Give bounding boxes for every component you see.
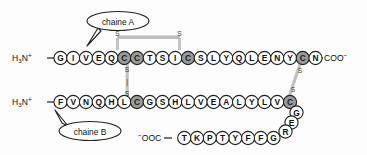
chain-b-residue-27: T <box>216 131 229 144</box>
s-label-interchain-left-mid: | <box>126 78 128 86</box>
residue-letter: E <box>262 53 268 63</box>
chain-b-residue-11: L <box>181 95 194 108</box>
residue-letter: V <box>83 53 89 63</box>
chain-b-residue-1: F <box>54 95 67 108</box>
residue-letter: N <box>312 53 318 63</box>
residue-letter: I <box>174 53 176 63</box>
residue-letter: V <box>274 97 280 107</box>
residue-letter: N <box>83 97 89 107</box>
residue-letter: T <box>182 133 188 143</box>
residue-letter: L <box>185 97 190 107</box>
chain-a-residue-15: Q <box>232 51 245 64</box>
disulfide-bond-intrachain-a-stem-right <box>178 38 181 50</box>
chain-a-n-terminus: H3N+ <box>12 51 32 63</box>
chain-a-residue-5: Q <box>105 51 118 64</box>
chain-a-residue-16: L <box>245 51 258 64</box>
callout-chain-b-label: chaine B <box>74 127 107 137</box>
chain-b-residue-2: V <box>67 95 80 108</box>
residue-letter: P <box>207 133 213 143</box>
residue-letter: Q <box>236 53 243 63</box>
chain-a-residue-17: E <box>258 51 271 64</box>
disulfide-bond-intrachain-a-bar <box>117 36 180 39</box>
chain-b-residue-30: T <box>178 131 191 144</box>
chain-a-residue-9: S <box>156 51 169 64</box>
callout-chain-a-tail <box>87 28 101 46</box>
disulfide-bonds-layer <box>116 36 300 101</box>
chain-b-n-terminus: H3N+ <box>12 95 32 107</box>
s-label-interchain-right-bottom: S <box>291 86 296 93</box>
residue-letter: G <box>146 97 153 107</box>
chain-a-residue-19: Y <box>283 51 296 64</box>
residue-letter: S <box>160 53 166 63</box>
diagram-canvas: GIVEQCCTSICSLYQLENYCNFVNQHLCGSHLVEALYLVC… <box>0 0 367 155</box>
callout-chain-a-label: chaine A <box>102 17 135 27</box>
chain-b-residue-6: L <box>118 95 131 108</box>
callout-chain-b[interactable]: chaine B <box>55 110 121 141</box>
residue-letter: C <box>134 97 140 107</box>
residue-letter: V <box>198 97 204 107</box>
chain-b-residue-29: K <box>190 131 203 144</box>
residue-letter: L <box>211 53 216 63</box>
chain-b-residue-22: R <box>279 125 292 138</box>
chain-a-residue-8: T <box>143 51 156 64</box>
residue-letter: T <box>220 133 226 143</box>
s-label-intrachain-right: S <box>177 30 182 37</box>
chain-a-residue-3: V <box>79 51 92 64</box>
chain-b-residue-10: H <box>169 95 182 108</box>
chain-a-residue-13: L <box>207 51 220 64</box>
chain-b-residue-3: N <box>79 95 92 108</box>
chain-a-residue-4: E <box>92 51 105 64</box>
residue-letter: Y <box>249 97 255 107</box>
s-label-interchain-left-bottom: S <box>125 90 130 97</box>
residue-letter: C <box>300 53 306 63</box>
chain-a-residue-14: Y <box>220 51 233 64</box>
residue-letter: Y <box>287 53 293 63</box>
callout-chain-b-tail <box>55 110 68 126</box>
residue-letter: G <box>57 53 64 63</box>
residue-letter: E <box>96 53 102 63</box>
chain-b-residue-13: E <box>207 95 220 108</box>
chain-b-residue-8: G <box>143 95 156 108</box>
residue-letter: C <box>185 53 191 63</box>
chain-b-residue-24: F <box>254 131 267 144</box>
residue-letter: R <box>282 127 288 137</box>
residue-letter: S <box>198 53 204 63</box>
residue-letter: G <box>270 133 277 143</box>
residue-letter: F <box>58 97 63 107</box>
residue-letter: C <box>121 53 127 63</box>
residue-letter: L <box>262 97 267 107</box>
chain-b-n-term-sup: + <box>28 95 32 102</box>
residue-letter: H <box>172 97 178 107</box>
residue-letter: L <box>236 97 241 107</box>
residue-letter: Y <box>223 53 229 63</box>
residue-letter: E <box>211 97 217 107</box>
residue-letter: C <box>287 97 293 107</box>
residue-letter: F <box>258 133 263 143</box>
residue-letter: Q <box>95 97 102 107</box>
chain-a-residue-6: C <box>118 51 131 64</box>
chain-a-residue-18: N <box>271 51 284 64</box>
chain-a-residue-20: C <box>296 51 309 64</box>
chain-b-residue-23: G <box>267 131 280 144</box>
chain-a-residue-21: N <box>309 51 322 64</box>
chain-b-residue-9: S <box>156 95 169 108</box>
chain-b-residue-5: H <box>105 95 118 108</box>
chain-b-c-term-text: OOC <box>142 133 162 143</box>
chain-b-residue-16: Y <box>245 95 258 108</box>
chain-b-residue-18: V <box>271 95 284 108</box>
chain-a-residue-11: C <box>181 51 194 64</box>
s-label-interchain-right-top: S <box>298 67 303 74</box>
insulin-structure-diagram: GIVEQCCTSICSLYQLENYCNFVNQHLCGSHLVEALYLVC… <box>0 0 367 155</box>
s-label-interchain-left-top: S <box>125 66 130 73</box>
chain-b-residue-15: L <box>232 95 245 108</box>
chain-a-residue-1: G <box>54 51 67 64</box>
chain-b-residue-25: F <box>241 131 254 144</box>
chain-a-residue-2: I <box>67 51 80 64</box>
chain-a-c-term-text: COO <box>324 53 344 63</box>
residue-letter: I <box>72 53 74 63</box>
residue-letter: F <box>245 133 250 143</box>
chain-b-residue-17: L <box>258 95 271 108</box>
chain-b-c-terminus: −OOC <box>138 131 161 143</box>
chain-a-c-terminus: COO− <box>324 51 348 63</box>
chain-b-residue-26: Y <box>229 131 242 144</box>
